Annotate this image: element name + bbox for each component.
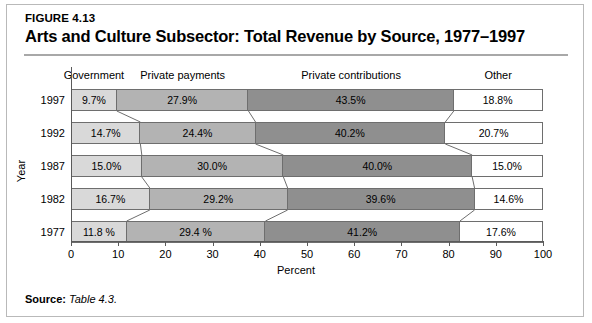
y-tick-label: 1977 bbox=[27, 221, 65, 243]
bar-segment-private-payments: 27.9% bbox=[117, 89, 249, 111]
bar-segment-private-payments: 29.4 % bbox=[127, 221, 266, 243]
x-tick-label: 40 bbox=[245, 248, 275, 260]
bar-row: 199214.7%24.4%40.2%20.7% bbox=[7, 122, 585, 144]
source-reference: Table 4.3. bbox=[69, 293, 117, 305]
bar-segment-government: 16.7% bbox=[71, 188, 150, 210]
bar-segment-private-contributions: 43.5% bbox=[248, 89, 453, 111]
bar-segment-private-payments: 30.0% bbox=[142, 155, 284, 177]
x-axis-tick bbox=[543, 241, 544, 246]
x-axis-tick bbox=[118, 241, 119, 246]
column-header-private-payments: Private payments bbox=[93, 69, 273, 81]
x-tick-label: 80 bbox=[434, 248, 464, 260]
bar-segment-other: 20.7% bbox=[445, 122, 543, 144]
x-tick-label: 100 bbox=[528, 248, 558, 260]
x-axis-tick bbox=[260, 241, 261, 246]
y-tick-label: 1987 bbox=[27, 155, 65, 177]
bar-segment-other: 17.6% bbox=[460, 221, 543, 243]
bar-segment-other: 14.6% bbox=[475, 188, 544, 210]
bar-row: 198216.7%29.2%39.6%14.6% bbox=[7, 188, 585, 210]
x-axis-tick bbox=[449, 241, 450, 246]
bar-segment-private-contributions: 39.6% bbox=[288, 188, 475, 210]
bar-segment-government: 9.7% bbox=[71, 89, 117, 111]
x-tick-label: 20 bbox=[150, 248, 180, 260]
chart-plot-area: Year Percent GovernmentPrivate paymentsP… bbox=[7, 5, 585, 318]
x-tick-label: 90 bbox=[481, 248, 511, 260]
x-axis-tick bbox=[401, 241, 402, 246]
bar-segment-government: 14.7% bbox=[71, 122, 140, 144]
source-label: Source: bbox=[25, 293, 66, 305]
y-tick-label: 1982 bbox=[27, 188, 65, 210]
x-tick-label: 70 bbox=[386, 248, 416, 260]
x-axis-tick bbox=[307, 241, 308, 246]
bar-segment-private-payments: 24.4% bbox=[140, 122, 255, 144]
bar-segment-government: 11.8 % bbox=[71, 221, 127, 243]
x-axis-tick bbox=[354, 241, 355, 246]
x-axis-tick bbox=[213, 241, 214, 246]
bar-segment-government: 15.0% bbox=[71, 155, 142, 177]
bar-row: 19979.7%27.9%43.5%18.8% bbox=[7, 89, 585, 111]
bar-segment-private-payments: 29.2% bbox=[150, 188, 288, 210]
figure-frame: FIGURE 4.13 Arts and Culture Subsector: … bbox=[6, 4, 584, 317]
bar-row: 197711.8 %29.4 %41.2%17.6% bbox=[7, 221, 585, 243]
bar-segment-other: 15.0% bbox=[472, 155, 543, 177]
x-tick-label: 50 bbox=[292, 248, 322, 260]
x-axis-tick bbox=[71, 241, 72, 246]
bar-row: 198715.0%30.0%40.0%15.0% bbox=[7, 155, 585, 177]
bar-segment-private-contributions: 40.2% bbox=[256, 122, 446, 144]
x-tick-label: 0 bbox=[56, 248, 86, 260]
y-tick-label: 1992 bbox=[27, 122, 65, 144]
x-axis-tick bbox=[165, 241, 166, 246]
x-tick-label: 30 bbox=[198, 248, 228, 260]
bar-segment-private-contributions: 40.0% bbox=[283, 155, 472, 177]
bar-segment-private-contributions: 41.2% bbox=[265, 221, 459, 243]
x-tick-label: 10 bbox=[103, 248, 133, 260]
y-axis-line bbox=[71, 67, 72, 242]
y-tick-label: 1997 bbox=[27, 89, 65, 111]
bar-segment-other: 18.8% bbox=[454, 89, 543, 111]
x-axis-title: Percent bbox=[7, 264, 585, 276]
column-header-other: Other bbox=[408, 69, 588, 81]
x-axis-tick bbox=[496, 241, 497, 246]
source-note: Source: Table 4.3. bbox=[25, 293, 117, 305]
x-tick-label: 60 bbox=[339, 248, 369, 260]
